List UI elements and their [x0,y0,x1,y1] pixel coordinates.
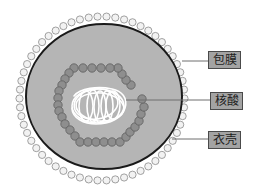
envelope-bead [28,137,35,144]
envelope-bead [16,86,23,93]
envelope-bead [137,167,144,174]
envelope-bead [94,177,101,184]
envelope-bead [52,27,59,34]
envelope-bead [68,19,75,26]
envelope-bead [52,163,59,170]
envelope-bead [158,151,165,158]
envelope-bead [60,167,67,174]
envelope-bead [76,16,83,23]
capsid-bead [92,138,100,146]
envelope-bead [145,27,152,34]
envelope-bead [24,129,31,136]
envelope-bead [20,69,27,76]
envelope-bead [173,129,180,136]
capsid-bead [79,64,87,72]
capsid-bead [140,103,148,111]
envelope-bead [20,121,27,128]
envelope-bead [16,104,23,111]
envelope-bead [33,145,40,152]
capsid-bead [76,138,84,146]
capsid-bead [106,64,114,72]
envelope-bead [45,157,52,164]
envelope-bead [121,174,128,181]
envelope-bead [16,95,23,102]
envelope-bead [39,151,46,158]
envelope-bead [152,157,159,164]
envelope-bead [28,53,35,60]
envelope-bead [33,45,40,52]
envelope-bead [24,61,31,68]
envelope-bead [129,19,136,26]
capsid-bead [100,138,108,146]
envelope-bead [112,176,119,183]
envelope-bead [94,13,101,20]
envelope-bead [145,163,152,170]
envelope-bead [18,113,25,120]
envelope-bead [103,177,110,184]
envelope-bead [137,23,144,30]
envelope-bead [76,174,83,181]
capsid-bead [108,138,116,146]
capsid-bead [97,64,105,72]
envelope-bead [39,39,46,46]
capsid-bead [138,95,146,103]
envelope-bead [152,32,159,39]
envelope-bead [45,32,52,39]
envelope-bead [85,14,92,21]
envelope-bead [103,13,110,20]
envelope-bead [18,77,25,84]
nucleic-acid-label: 核酸 [210,92,243,110]
envelope-label: 包膜 [208,51,241,69]
envelope-bead [164,145,171,152]
envelope-bead [85,176,92,183]
envelope-bead [121,16,128,23]
envelope-bead [169,137,176,144]
envelope-bead [129,171,136,178]
capsid-bead [88,64,96,72]
envelope-bead [60,23,67,30]
capsid-bead [114,64,122,72]
envelope-bead [68,171,75,178]
envelope-bead [112,14,119,21]
capsid-bead [84,138,92,146]
capsid-label: 衣壳 [208,131,241,149]
